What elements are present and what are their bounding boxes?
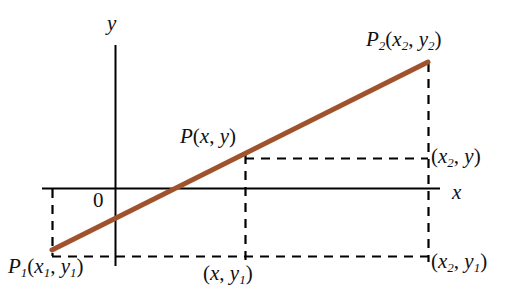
close-paren: ) — [474, 144, 481, 168]
p2-name: P — [366, 27, 379, 51]
point-label-p: P(x, y) — [180, 126, 236, 147]
close-paren: ) — [435, 27, 442, 51]
point-label-p1: P1(x1, y1) — [8, 256, 84, 277]
p1-y: y — [61, 254, 70, 278]
open-paren: ( — [431, 144, 438, 168]
line-through-points — [52, 62, 428, 250]
x-y1-x: x — [210, 261, 219, 285]
comma: , — [219, 261, 224, 285]
p-x: x — [200, 124, 209, 148]
x2-y1-x: x — [438, 249, 447, 273]
open-paren: ( — [203, 261, 210, 285]
close-paren: ) — [246, 261, 253, 285]
p-name: P — [180, 124, 193, 148]
x2-y1-y: y — [464, 249, 473, 273]
close-paren: ) — [229, 124, 236, 148]
x2-y-x: x — [438, 144, 447, 168]
x2-y-y: y — [464, 144, 473, 168]
point-label-p2: P2(x2, y2) — [366, 29, 442, 50]
x-y1-y: y — [230, 261, 239, 285]
origin-label: 0 — [93, 190, 104, 211]
comma: , — [454, 144, 459, 168]
x-axis-label: x — [452, 182, 461, 203]
close-paren: ) — [480, 249, 487, 273]
p2-y: y — [419, 27, 428, 51]
slope-diagram-figure: y x 0 P2(x2, y2) P(x, y) (x2, y) (x2, y1… — [0, 0, 518, 304]
open-paren: ( — [431, 249, 438, 273]
p-y: y — [220, 124, 229, 148]
comma: , — [50, 254, 55, 278]
open-paren: ( — [193, 124, 200, 148]
close-paren: ) — [77, 254, 84, 278]
coordinate-label-x2-y: (x2, y) — [431, 146, 481, 167]
coordinate-label-x2-y1: (x2, y1) — [431, 251, 487, 272]
y-axis-label: y — [107, 13, 116, 34]
comma: , — [209, 124, 214, 148]
p2-x: x — [392, 27, 401, 51]
dashed-guides-group — [52, 63, 429, 262]
p1-x: x — [34, 254, 43, 278]
comma: , — [408, 27, 413, 51]
p1-name: P — [8, 254, 21, 278]
coordinate-label-x-y1: (x, y1) — [203, 263, 253, 284]
comma: , — [454, 249, 459, 273]
